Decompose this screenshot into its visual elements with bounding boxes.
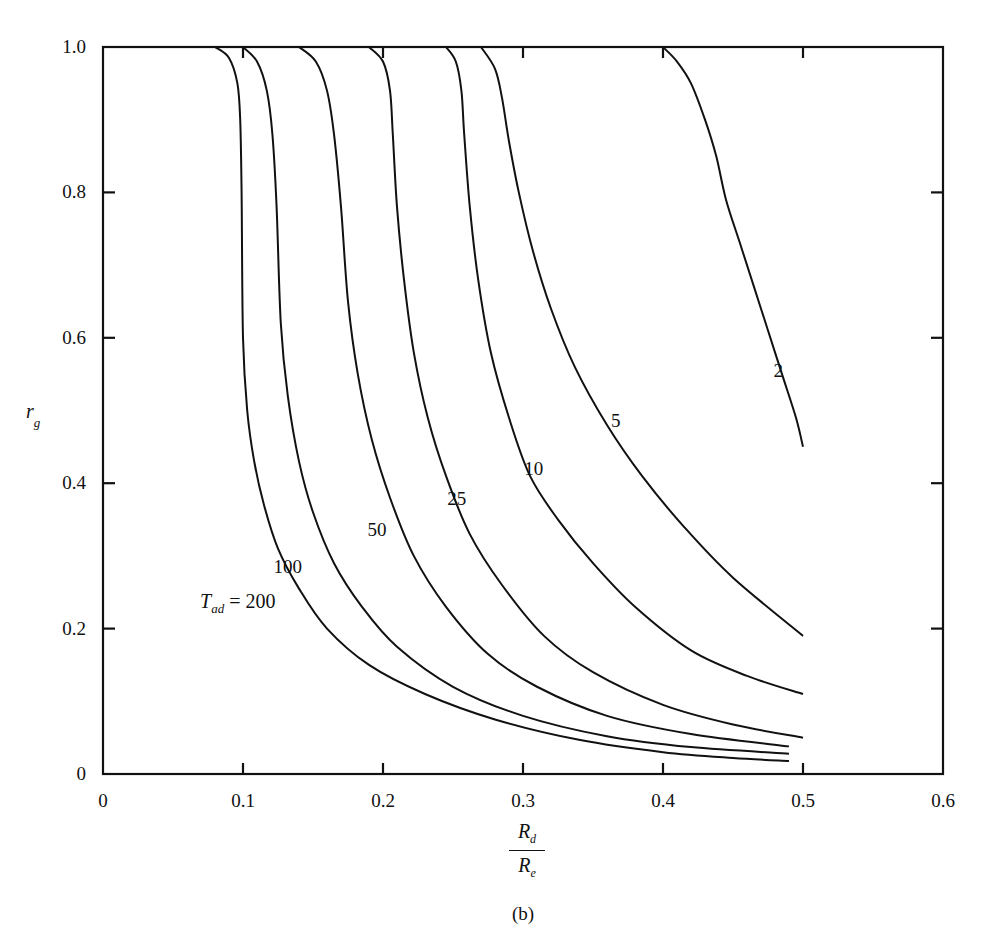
curve-label-2: 2 [773,360,783,382]
plot-frame [103,47,943,774]
y-axis-label: rg [26,400,40,427]
y-axis-label-main: r [26,400,34,422]
chart-curves [215,47,803,761]
curve-label-5: 5 [611,410,621,432]
curve-label-100: 100 [274,556,303,578]
x-tick-label: 0 [98,790,108,812]
x-axis-label-numerator: Rd [507,820,547,847]
x-tick-label: 0.5 [791,790,815,812]
x-tick-label: 0.1 [231,790,255,812]
y-tick-label: 0.2 [36,618,86,640]
y-tick-label: 0.8 [36,181,86,203]
curve-tad-5 [481,47,803,636]
y-tick-label: 0.4 [36,472,86,494]
parameter-label-tad: Tad = 200 [200,590,275,617]
x-tick-label: 0.6 [931,790,955,812]
chart-plot-area [0,0,996,945]
chart-axes [103,47,943,774]
y-tick-label: 1.0 [36,36,86,58]
y-tick-label: 0.6 [36,327,86,349]
curve-tad-10 [446,47,803,694]
curve-label-10: 10 [524,458,543,480]
x-tick-label: 0.3 [511,790,535,812]
curve-label-25: 25 [447,488,466,510]
x-tick-label: 0.4 [651,790,675,812]
x-tick-label: 0.2 [371,790,395,812]
x-axis-label-denominator: Re [507,854,547,881]
curve-tad-2 [663,47,803,447]
fraction-bar [509,850,545,851]
curve-tad-200 [215,47,789,761]
curve-tad-25 [369,47,803,738]
y-tick-label: 0 [36,763,86,785]
y-axis-label-sub: g [34,415,41,430]
curve-tad-100 [243,47,789,754]
figure-caption: (b) [512,903,534,925]
curve-label-50: 50 [367,519,386,541]
x-axis-label: Rd Re [507,820,547,881]
